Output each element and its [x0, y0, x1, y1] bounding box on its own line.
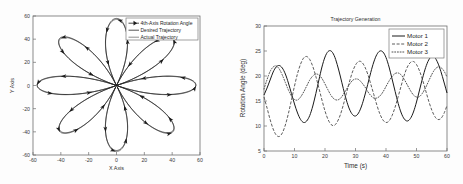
traj-xtick-10: 10: [292, 153, 298, 159]
traj-legend-label-0: Motor 1: [407, 32, 429, 39]
figure-root: 60 40 20 0 -20 -40 -60 -60 -40 -20: [0, 0, 463, 184]
xy-plot-svg: 60 40 20 0 -20 -40 -60 -60 -40 -20: [0, 0, 232, 184]
xy-xlabel: X Axis: [109, 165, 124, 171]
xy-xtick-60: 60: [197, 157, 203, 163]
traj-ytick-30: 30: [255, 23, 261, 29]
xy-ytick-20: 20: [24, 59, 30, 65]
xy-legend-label-2: Actual Trajectory: [141, 34, 179, 40]
traj-plot-svg: Trajectory Generation 30 25 20 15 10 5: [231, 0, 463, 184]
xy-ytick-60: 60: [24, 13, 30, 19]
traj-xtick-0: 0: [263, 153, 266, 159]
traj-ylabel: Rotation Angle (deg): [239, 59, 247, 117]
traj-ytick-20: 20: [255, 73, 261, 79]
traj-legend[interactable]: Motor 1 Motor 2 Motor 3: [389, 29, 444, 58]
xy-xtick-0: 0: [115, 157, 118, 163]
xy-xtick-40: 40: [169, 157, 175, 163]
xy-xtick-m60: -60: [29, 157, 37, 163]
traj-xtick-30: 30: [353, 153, 359, 159]
trajectory-generation-plot: Trajectory Generation 30 25 20 15 10 5: [231, 0, 463, 184]
xy-legend-label-0: 4th-Axis Rotation Angle: [141, 20, 193, 26]
xy-xtick-m20: -20: [85, 157, 93, 163]
trajectory-xy-plot: 60 40 20 0 -20 -40 -60 -60 -40 -20: [0, 0, 232, 184]
xy-xtick-20: 20: [141, 157, 147, 163]
traj-xtick-20: 20: [322, 153, 328, 159]
xy-legend[interactable]: 4th-Axis Rotation Angle Desired Trajecto…: [126, 18, 198, 40]
traj-xtick-60: 60: [444, 153, 450, 159]
xy-ytick-m20: -20: [23, 106, 31, 112]
traj-legend-label-1: Motor 2: [407, 40, 429, 47]
xy-xtick-m40: -40: [57, 157, 65, 163]
xy-legend-label-1: Desired Trajectory: [141, 27, 182, 33]
traj-ytick-15: 15: [255, 98, 261, 104]
xy-ytick-m40: -40: [23, 129, 31, 135]
xy-ytick-0: 0: [27, 83, 30, 89]
xy-ytick-40: 40: [24, 36, 30, 42]
traj-xtick-40: 40: [383, 153, 389, 159]
traj-legend-label-2: Motor 3: [407, 48, 429, 55]
traj-xlabel: Time (s): [344, 162, 367, 170]
xy-ylabel: Y Axis: [9, 78, 15, 93]
traj-plot-title: Trajectory Generation: [331, 16, 381, 22]
traj-xtick-50: 50: [414, 153, 420, 159]
traj-ytick-10: 10: [255, 123, 261, 129]
traj-ytick-5: 5: [258, 148, 261, 154]
traj-ytick-25: 25: [255, 48, 261, 54]
